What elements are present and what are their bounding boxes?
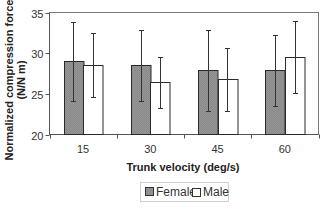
y-axis-title-unit: (N/N m) [15, 60, 27, 99]
x-tick-label: 15 [77, 143, 89, 155]
y-axis: 20253035 [31, 8, 49, 142]
x-tick-label: 60 [279, 143, 291, 155]
x-axis: 15304560 [50, 135, 320, 155]
x-axis-title: Trunk velocity (deg/s) [126, 161, 239, 173]
y-tick-label: 25 [31, 89, 43, 101]
bar-female-15 [65, 62, 85, 135]
legend: Female Male [141, 183, 230, 202]
legend-label-male: Male [203, 185, 229, 199]
x-tick-label: 45 [212, 143, 224, 155]
y-axis-title: Normalized compression force [3, 0, 15, 160]
legend-label-female: Female [156, 185, 196, 199]
bar-male-45 [219, 80, 239, 135]
x-tick-label: 30 [144, 143, 156, 155]
bar-chart: 20253035 15304560 Normalized compression… [0, 0, 324, 209]
y-tick-label: 35 [31, 8, 43, 20]
y-tick-label: 30 [31, 48, 43, 60]
legend-swatch-male [193, 189, 201, 197]
legend-swatch-female [146, 188, 154, 196]
y-tick-label: 20 [31, 130, 43, 142]
